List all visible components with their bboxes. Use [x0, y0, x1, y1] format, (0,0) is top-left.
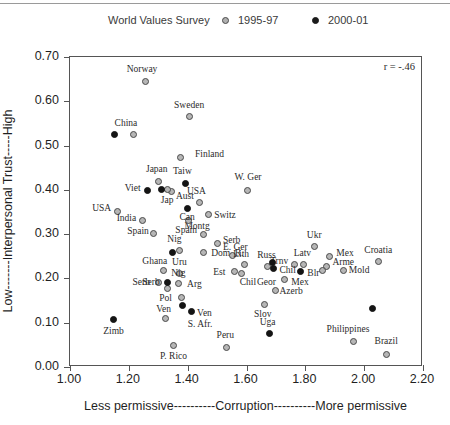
data-point[interactable] — [205, 211, 212, 218]
data-point[interactable] — [110, 316, 117, 323]
data-point-label: Ukr — [307, 230, 322, 240]
data-point[interactable] — [175, 280, 182, 287]
data-point-label: Can — [179, 212, 194, 222]
data-point-label: Azerb — [279, 286, 302, 296]
open-circle-icon — [222, 17, 229, 24]
x-axis-tick — [305, 365, 306, 371]
data-point[interactable] — [319, 267, 326, 274]
x-axis-tick — [364, 365, 365, 371]
legend-label-1995-97: 1995-97 — [238, 14, 278, 26]
data-point[interactable] — [170, 342, 177, 349]
data-point[interactable] — [281, 276, 288, 283]
x-axis-tick-label: 1.40 — [174, 372, 198, 386]
data-point[interactable] — [139, 217, 146, 224]
chart-legend: World Values Survey 1995-97 2000-01 — [0, 14, 450, 32]
data-point-label: Serb — [142, 277, 159, 287]
data-point-label: Russ — [257, 250, 275, 260]
data-point-label: Jap — [161, 195, 174, 205]
data-point[interactable] — [188, 308, 195, 315]
data-point[interactable] — [178, 294, 185, 301]
data-point[interactable] — [270, 265, 277, 272]
x-axis-tick-label: 2.20 — [410, 372, 434, 386]
data-point[interactable] — [160, 267, 167, 274]
data-point-label: P. Rico — [160, 351, 187, 361]
data-point-label: Japan — [146, 164, 168, 174]
y-axis-tick-label: 0.40 — [35, 182, 59, 196]
plot-area: r = -.46 NorwaySwedenChinaFinlandJapanW.… — [69, 56, 422, 366]
data-point[interactable] — [200, 231, 207, 238]
data-point-label: Lith — [233, 249, 249, 259]
data-point[interactable] — [162, 315, 169, 322]
x-axis-tick — [70, 365, 71, 371]
data-point-label: Finland — [195, 149, 224, 159]
y-axis-tick-label: 0.60 — [35, 93, 59, 107]
data-point-label: Est — [213, 267, 225, 277]
x-axis-tick-label: 1.80 — [292, 372, 316, 386]
data-point-label: Blr — [307, 268, 319, 278]
data-point[interactable] — [272, 287, 279, 294]
data-point-label: USA — [92, 203, 111, 213]
data-point[interactable] — [182, 180, 189, 187]
data-point[interactable] — [184, 205, 191, 212]
data-point-label: S. Afr. — [188, 319, 213, 329]
data-point[interactable] — [111, 131, 118, 138]
data-point[interactable] — [158, 186, 165, 193]
data-point-label: China — [115, 118, 138, 128]
data-point[interactable] — [350, 338, 357, 345]
top-divider — [0, 3, 450, 4]
x-axis-tick — [129, 365, 130, 371]
y-axis-tick-label: 0.10 — [35, 315, 59, 329]
data-point[interactable] — [179, 302, 186, 309]
y-axis-tick — [64, 190, 70, 191]
data-point-label: W. Ger — [234, 172, 261, 182]
data-point[interactable] — [169, 249, 176, 256]
data-point-label: Taiw — [173, 166, 192, 176]
data-point[interactable] — [144, 187, 151, 194]
data-point[interactable] — [244, 187, 251, 194]
data-point[interactable] — [196, 199, 203, 206]
correlation-annotation: r = -.46 — [384, 61, 415, 72]
data-point[interactable] — [383, 351, 390, 358]
y-axis-tick — [64, 278, 70, 279]
data-point[interactable] — [311, 243, 318, 250]
data-point[interactable] — [340, 267, 347, 274]
legend-title: World Values Survey — [108, 14, 210, 26]
data-point[interactable] — [142, 78, 149, 85]
data-point[interactable] — [214, 240, 221, 247]
data-point[interactable] — [177, 154, 184, 161]
data-point[interactable] — [241, 261, 248, 268]
data-point[interactable] — [150, 230, 157, 237]
y-axis-tick-label: 0.00 — [35, 359, 59, 373]
data-point-label: Nig — [167, 234, 181, 244]
data-point-label: Mex — [291, 277, 308, 287]
data-point[interactable] — [164, 279, 171, 286]
x-axis-tick — [423, 365, 424, 371]
data-point[interactable] — [297, 268, 304, 275]
data-point[interactable] — [176, 247, 183, 254]
data-point[interactable] — [155, 178, 162, 185]
data-point-label: Norway — [127, 64, 158, 74]
data-point-label: Chil — [279, 265, 295, 275]
data-point[interactable] — [238, 270, 245, 277]
data-point-label: Ghana — [142, 256, 167, 266]
data-point[interactable] — [200, 249, 207, 256]
data-point[interactable] — [223, 344, 230, 351]
data-point[interactable] — [300, 261, 307, 268]
data-point[interactable] — [266, 330, 273, 337]
data-point[interactable] — [375, 258, 382, 265]
data-point[interactable] — [369, 305, 376, 312]
data-point[interactable] — [261, 301, 268, 308]
data-point-label: Croatia — [364, 245, 392, 255]
data-point-label: Spain — [127, 226, 149, 236]
data-point-label: Ven — [197, 308, 212, 318]
legend-label-2000-01: 2000-01 — [328, 14, 368, 26]
y-axis-tick-label: 0.30 — [35, 226, 59, 240]
data-point[interactable] — [186, 113, 193, 120]
data-point-label: Nig — [171, 268, 185, 278]
x-axis-tick-label: 1.00 — [57, 372, 81, 386]
data-point[interactable] — [130, 131, 137, 138]
data-point-label: India — [117, 213, 137, 223]
x-axis-tick-label: 2.00 — [351, 372, 375, 386]
data-point-label: Latv — [294, 248, 311, 258]
filled-circle-icon — [312, 17, 319, 24]
